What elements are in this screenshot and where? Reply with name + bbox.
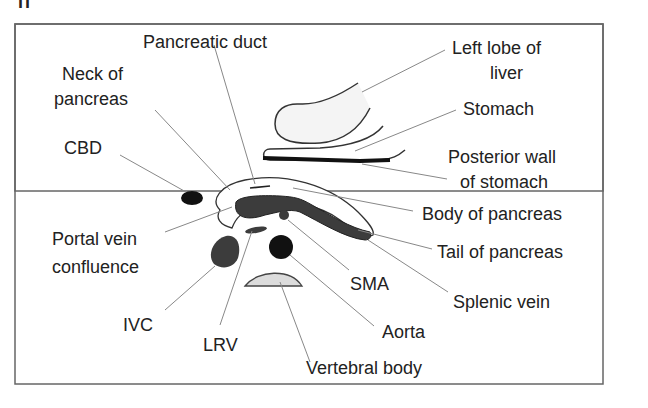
label-vertebral-body: Vertebral body	[306, 356, 422, 380]
lrv-shape	[245, 225, 268, 235]
label-portal-vein-line1: Portal vein	[52, 227, 137, 251]
label-cbd: CBD	[64, 136, 102, 160]
label-aorta: Aorta	[382, 320, 425, 344]
aorta-shape	[269, 235, 293, 259]
label-stomach: Stomach	[463, 97, 534, 121]
label-neck-of-pancreas-line1: Neck of	[62, 62, 123, 86]
cbd-shape	[181, 191, 203, 205]
sma-shape	[279, 210, 289, 220]
label-sma: SMA	[350, 272, 389, 296]
label-portal-vein-line2: confluence	[52, 255, 139, 279]
label-posterior-wall-line2: of stomach	[460, 170, 548, 194]
label-body-of-pancreas: Body of pancreas	[422, 202, 562, 226]
label-left-lobe-line2: liver	[490, 61, 523, 85]
label-lrv: LRV	[203, 333, 238, 357]
label-neck-of-pancreas-line2: pancreas	[54, 87, 128, 111]
vertebral-body-shape	[245, 273, 302, 286]
label-pancreatic-duct: Pancreatic duct	[143, 30, 267, 54]
label-tail-of-pancreas: Tail of pancreas	[437, 240, 563, 264]
label-ivc: IVC	[123, 313, 153, 337]
left-lobe-liver-shape	[275, 83, 370, 143]
ivc-shape	[211, 236, 239, 268]
label-splenic-vein: Splenic vein	[453, 290, 550, 314]
label-posterior-wall-line1: Posterior wall	[448, 145, 556, 169]
label-left-lobe-line1: Left lobe of	[452, 36, 541, 60]
